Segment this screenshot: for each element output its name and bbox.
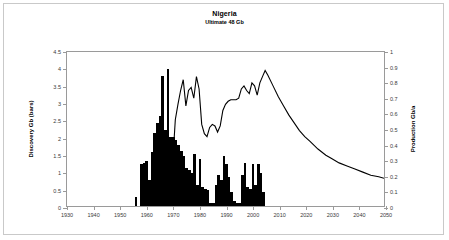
y-axis-tick — [63, 87, 67, 88]
x-axis-tick-label: 2050 — [380, 212, 392, 218]
y-axis-tick-label: 3 — [58, 101, 61, 107]
x-axis-tick — [147, 206, 148, 210]
y2-axis-tick — [384, 114, 388, 115]
y-axis-tick — [63, 156, 67, 157]
x-axis-tick — [359, 206, 360, 210]
plot-area: 00.511.522.533.544.5 00.10.20.30.40.50.6… — [66, 51, 385, 207]
x-axis-tick-label: 2040 — [353, 212, 365, 218]
x-axis-tick-label: 1990 — [220, 212, 232, 218]
y2-axis-tick — [384, 83, 388, 84]
x-axis-tick-label: 1960 — [141, 212, 153, 218]
x-axis-tick — [306, 206, 307, 210]
y-axis-tick — [63, 139, 67, 140]
y2-axis-tick-label: 0.7 — [390, 96, 398, 102]
x-axis-tick — [253, 206, 254, 210]
x-axis-tick — [67, 206, 68, 210]
y2-axis-title: Production Gb/a — [408, 51, 418, 207]
x-axis-tick-label: 2020 — [300, 212, 312, 218]
x-axis-tick — [333, 206, 334, 210]
y2-axis-tick — [384, 161, 388, 162]
x-axis-tick-label: 2000 — [247, 212, 259, 218]
y2-axis-tick-label: 0.4 — [390, 143, 398, 149]
x-axis-tick — [173, 206, 174, 210]
x-axis-tick-label: 1930 — [61, 212, 73, 218]
y2-axis-tick-label: 0.1 — [390, 189, 398, 195]
x-axis-tick-label: 1950 — [114, 212, 126, 218]
x-axis-tick — [120, 206, 121, 210]
y2-axis-tick — [384, 99, 388, 100]
y-axis-tick-label: 2.5 — [53, 118, 61, 124]
chart-frame: Nigeria Ultimate 48 Gb Discovery Gb (bar… — [3, 3, 444, 235]
x-axis-tick-label: 1980 — [194, 212, 206, 218]
y-axis-tick-label: 1.5 — [53, 153, 61, 159]
y-axis-tick — [63, 69, 67, 70]
y-axis-tick — [63, 173, 67, 174]
x-axis-tick-label: 2010 — [274, 212, 286, 218]
y-axis-title: Discovery Gb (bars) — [26, 51, 36, 207]
y-axis-tick-label: 1 — [58, 170, 61, 176]
y2-axis-tick — [384, 192, 388, 193]
y-axis-tick-label: 2 — [58, 136, 61, 142]
chart-title: Nigeria — [4, 10, 445, 17]
y-axis-tick — [63, 52, 67, 53]
y2-axis-tick-label: 0.2 — [390, 174, 398, 180]
y2-axis-tick-label: 0.9 — [390, 65, 398, 71]
y2-axis-title-text: Production Gb/a — [410, 106, 416, 153]
y2-axis-tick-label: 1 — [390, 49, 393, 55]
y2-axis-tick — [384, 146, 388, 147]
chart-subtitle: Ultimate 48 Gb — [4, 19, 445, 25]
x-axis-tick — [200, 206, 201, 210]
x-axis-tick-label: 1940 — [87, 212, 99, 218]
x-axis-tick — [280, 206, 281, 210]
x-axis-tick — [386, 206, 387, 210]
y2-axis-tick-label: 0 — [390, 205, 393, 211]
y2-axis-tick — [384, 68, 388, 69]
y2-axis-tick-label: 0.5 — [390, 127, 398, 133]
y-axis-title-text: Discovery Gb (bars) — [28, 100, 34, 157]
y-axis-tick-label: 4.5 — [53, 49, 61, 55]
x-axis-tick — [94, 206, 95, 210]
x-axis-tick-label: 2030 — [327, 212, 339, 218]
y2-axis-tick-label: 0.6 — [390, 111, 398, 117]
y-axis-tick — [63, 104, 67, 105]
y2-axis-tick — [384, 130, 388, 131]
y-axis-tick-label: 3.5 — [53, 84, 61, 90]
y-axis-tick — [63, 121, 67, 122]
y-axis-tick — [63, 191, 67, 192]
y2-axis-tick-label: 0.3 — [390, 158, 398, 164]
y2-axis-tick — [384, 52, 388, 53]
y2-axis-tick-label: 0.8 — [390, 80, 398, 86]
y-axis-tick-label: 0.5 — [53, 188, 61, 194]
x-axis-tick — [227, 206, 228, 210]
y-axis-tick-label: 4 — [58, 66, 61, 72]
x-axis-tick-label: 1970 — [167, 212, 179, 218]
plot-inner — [67, 52, 384, 206]
y2-axis-tick — [384, 177, 388, 178]
production-curve — [67, 52, 384, 206]
y-axis-tick-label: 0 — [58, 205, 61, 211]
